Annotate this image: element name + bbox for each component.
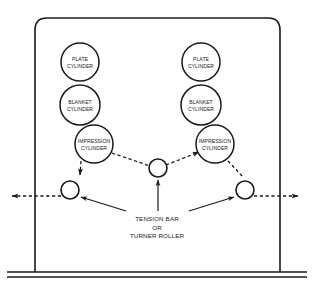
- impression-cylinder-left-label: IMPRESSION: [78, 138, 111, 144]
- plate-cylinder-left-label-2: CYLINDER: [67, 63, 93, 69]
- diagram-canvas: PLATE CYLINDER BLANKET CYLINDER IMPRESSI…: [0, 0, 314, 295]
- turner-roller-center: [149, 159, 167, 177]
- blanket-cylinder-right-label-2: CYLINDER: [188, 106, 214, 112]
- blanket-cylinder-left-label: BLANKET: [68, 99, 92, 105]
- leader-to-right-roller: [189, 197, 234, 211]
- plate-cylinder-right: [182, 43, 220, 81]
- leader-to-left-roller: [81, 197, 126, 211]
- plate-cylinder-left-label: PLATE: [72, 56, 89, 62]
- impression-cylinder-right: [196, 125, 234, 163]
- plate-cylinder-left: [61, 43, 99, 81]
- web-path-right-descent: [228, 161, 243, 177]
- turner-roller-right: [236, 181, 254, 199]
- press-diagram: PLATE CYLINDER BLANKET CYLINDER IMPRESSI…: [0, 0, 314, 295]
- impression-cylinder-right-label-2: CYLINDER: [202, 145, 228, 151]
- callout-leaders: [81, 180, 234, 211]
- blanket-cylinder-right-label: BLANKET: [189, 99, 213, 105]
- callout-line-2: OR: [152, 224, 162, 231]
- web-path-right-diagonal: [166, 152, 199, 165]
- blanket-cylinder-left-label-2: CYLINDER: [67, 106, 93, 112]
- web-path-left-descent: [80, 161, 81, 175]
- callout-line-3: TURNER ROLLER: [130, 232, 185, 239]
- impression-cylinder-left-label-2: CYLINDER: [81, 145, 107, 151]
- turner-roller-left: [61, 181, 79, 199]
- impression-cylinder-left: [75, 125, 113, 163]
- plate-cylinder-right-label-2: CYLINDER: [188, 63, 214, 69]
- print-unit-left: PLATE CYLINDER BLANKET CYLINDER IMPRESSI…: [60, 43, 113, 163]
- print-unit-right: PLATE CYLINDER BLANKET CYLINDER IMPRESSI…: [181, 43, 234, 163]
- plate-cylinder-right-label: PLATE: [193, 56, 210, 62]
- blanket-cylinder-right: [181, 85, 221, 125]
- impression-cylinder-right-label: IMPRESSION: [199, 138, 232, 144]
- tension-bar-callout: TENSION BAR OR TURNER ROLLER: [130, 215, 185, 239]
- web-path-left-diagonal: [112, 153, 150, 166]
- blanket-cylinder-left: [60, 85, 100, 125]
- callout-line-1: TENSION BAR: [135, 215, 179, 222]
